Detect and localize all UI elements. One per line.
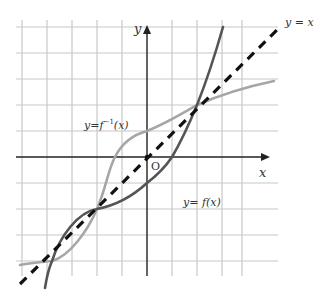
y-axis-arrow-icon xyxy=(143,25,151,34)
x-axis-arrow-icon xyxy=(261,153,270,161)
f-inverse-label: y=f−1(x) xyxy=(83,118,129,132)
function-inverse-diagram: y x O y = x y=f−1(x) y= f(x) xyxy=(0,0,326,308)
x-axis-label: x xyxy=(259,165,267,180)
origin-label: O xyxy=(151,160,160,173)
origin-point xyxy=(145,155,149,159)
f-label: y= f(x) xyxy=(182,196,221,209)
y-axis-label: y xyxy=(133,21,142,36)
y-equals-x-label: y = x xyxy=(284,16,314,29)
axes xyxy=(16,25,270,276)
